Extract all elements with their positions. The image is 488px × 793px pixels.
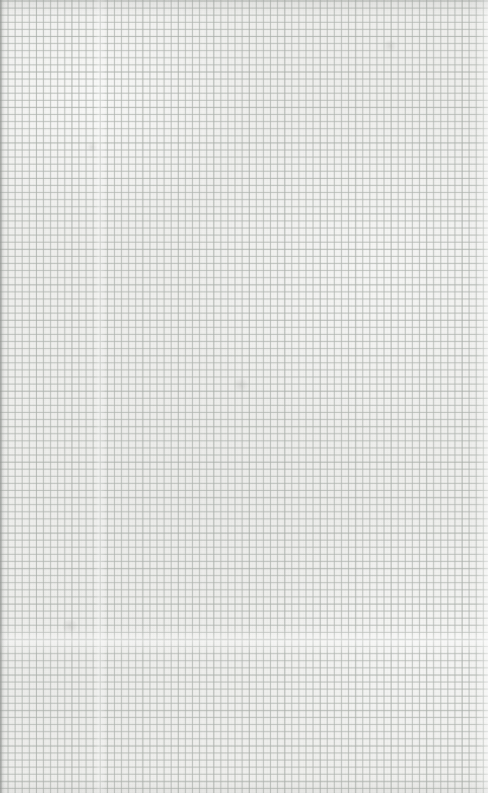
sheet-writing-area[interactable] <box>0 0 488 793</box>
graph-paper-sheet <box>0 0 488 793</box>
